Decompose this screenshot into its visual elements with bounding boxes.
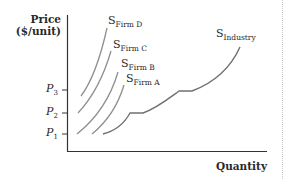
- page-edge-divider: [282, 0, 283, 179]
- y-axis-title: Price ($/unit): [5, 13, 61, 37]
- x-axis-title: Quantity: [216, 160, 267, 172]
- y-axis-title-line1: Price: [5, 13, 61, 25]
- tick-label-p1: P1: [46, 126, 58, 141]
- label-s-firm-a: SFirm A: [126, 72, 160, 87]
- label-s-industry: SIndustry: [216, 27, 256, 42]
- label-s-firm-b: SFirm B: [121, 57, 155, 72]
- tick-label-p3: P3: [46, 82, 58, 97]
- supply-curve-firm-c: [78, 51, 111, 113]
- supply-curve-firm-b: [77, 72, 118, 134]
- label-s-firm-d: SFirm D: [108, 14, 142, 29]
- label-s-firm-c: SFirm C: [113, 38, 147, 53]
- y-axis-title-line2: ($/unit): [5, 25, 61, 37]
- tick-label-p2: P2: [46, 105, 58, 120]
- supply-chart: Price ($/unit) Quantity P3 P2 P1 SFirm D…: [0, 0, 288, 179]
- supply-curve-firm-d: [81, 28, 107, 96]
